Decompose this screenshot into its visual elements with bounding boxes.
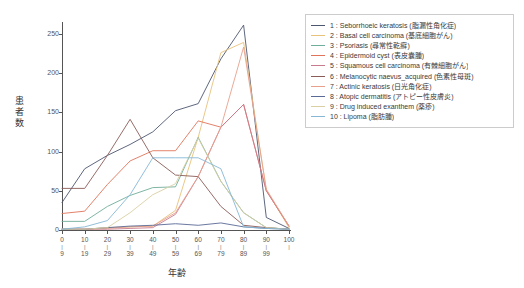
legend-item[interactable]: 1 : Seborrhoeic keratosis (脂漏性角化症) — [311, 20, 507, 30]
legend-color-swatch — [311, 106, 325, 107]
legend-item-label: 2 : Basal cell carcinoma (基底細胞がん) — [330, 31, 453, 40]
legend-item-label: 10 : Lipoma (脂肪腫) — [330, 112, 394, 121]
legend-item[interactable]: 3 : Psoriasis (尋常性乾癬) — [311, 40, 507, 50]
y-tick: 0 — [30, 226, 59, 234]
y-tick: 250 — [30, 30, 59, 38]
x-tick-mark — [244, 231, 245, 234]
legend-item[interactable]: 10 : Lipoma (脂肪腫) — [311, 112, 507, 122]
legend: 1 : Seborrhoeic keratosis (脂漏性角化症)2 : Ba… — [305, 14, 514, 128]
y-tick-label: 50 — [37, 187, 59, 194]
x-axis-line — [62, 230, 291, 231]
y-axis-title: 患者数 — [13, 96, 25, 129]
y-tick-label: 200 — [37, 69, 59, 76]
legend-item-label: 1 : Seborrhoeic keratosis (脂漏性角化症) — [330, 21, 456, 30]
series-lines — [62, 22, 289, 230]
legend-color-swatch — [311, 86, 325, 87]
x-tick-mark — [62, 231, 63, 234]
legend-item-label: 8 : Atopic dermatitis (アトピー性皮膚炎) — [330, 92, 454, 101]
y-tick: 100 — [30, 148, 59, 156]
y-tick: 150 — [30, 108, 59, 116]
x-tick-mark — [266, 231, 267, 234]
x-tick-mark — [289, 231, 290, 234]
x-tick-label-upper: 100 — [276, 236, 302, 244]
x-tick-mark — [107, 231, 108, 234]
y-tick-label: 250 — [37, 30, 59, 37]
x-tick-label-lower: 99 — [253, 250, 279, 258]
legend-item[interactable]: 6 : Melanocytic naevus_acquired (色素性母斑) — [311, 71, 507, 81]
legend-color-swatch — [311, 65, 325, 66]
legend-item-label: 4 : Epidermoid cyst (表皮嚢腫) — [330, 51, 424, 60]
x-tick-mark — [153, 231, 154, 234]
legend-color-swatch — [311, 76, 325, 77]
legend-item-label: 5 : Squamous cell carcinoma (有棘細胞がん) — [330, 61, 468, 70]
legend-item[interactable]: 2 : Basal cell carcinoma (基底細胞がん) — [311, 30, 507, 40]
legend-item-label: 9 : Drug induced exanthem (薬疹) — [330, 102, 435, 111]
chart-figure: 患者数 050100150200250 0|910|1920|2930|3940… — [0, 0, 524, 288]
legend-color-swatch — [311, 96, 325, 97]
series-line — [62, 158, 289, 229]
plot-area — [62, 22, 289, 230]
legend-item[interactable]: 4 : Epidermoid cyst (表皮嚢腫) — [311, 51, 507, 61]
legend-item[interactable]: 8 : Atopic dermatitis (アトピー性皮膚炎) — [311, 91, 507, 101]
series-line — [62, 138, 289, 229]
x-tick-mark — [198, 231, 199, 234]
y-tick-label: 0 — [37, 226, 59, 233]
series-line — [62, 47, 289, 229]
y-tick: 50 — [30, 187, 59, 195]
legend-color-swatch — [311, 25, 325, 26]
x-tick-mark — [176, 231, 177, 234]
legend-color-swatch — [311, 45, 325, 46]
legend-item[interactable]: 9 : Drug induced exanthem (薬疹) — [311, 102, 507, 112]
legend-color-swatch — [311, 55, 325, 56]
legend-item[interactable]: 5 : Squamous cell carcinoma (有棘細胞がん) — [311, 61, 507, 71]
legend-item-label: 7 : Actinic keratosis (日光角化症) — [330, 82, 432, 91]
legend-item-label: 3 : Psoriasis (尋常性乾癬) — [330, 41, 410, 50]
x-tick-mark — [85, 231, 86, 234]
legend-item-label: 6 : Melanocytic naevus_acquired (色素性母斑) — [330, 72, 474, 81]
y-tick-label: 150 — [37, 108, 59, 115]
x-tick-mark — [221, 231, 222, 234]
legend-color-swatch — [311, 35, 325, 36]
y-tick: 200 — [30, 69, 59, 77]
x-axis-title: 年齢 — [62, 266, 291, 279]
y-tick-label: 100 — [37, 148, 59, 155]
legend-color-swatch — [311, 116, 325, 117]
series-line — [62, 42, 289, 229]
x-tick-label-group: 100| — [276, 236, 302, 250]
x-tick-mark — [130, 231, 131, 234]
x-tick-range-dash: | — [276, 244, 302, 250]
legend-item[interactable]: 7 : Actinic keratosis (日光角化症) — [311, 81, 507, 91]
